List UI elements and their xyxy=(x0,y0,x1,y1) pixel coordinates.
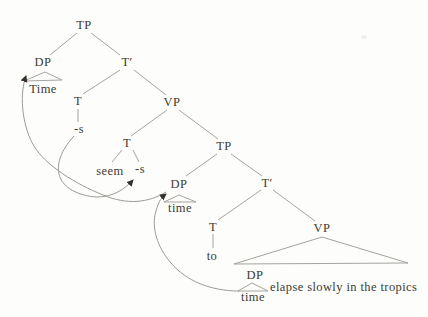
branch-tbar-vp xyxy=(134,70,166,95)
roof-vp-big xyxy=(234,237,408,264)
leaf-vp-phrase: elapse slowly in the tropics xyxy=(270,281,417,294)
leaf-time-lowest: time xyxy=(241,291,265,304)
branch-tbar-t xyxy=(83,70,120,94)
node-dp-embedded: DP xyxy=(171,178,188,191)
branch-tseem-seem xyxy=(112,150,122,162)
leaf-seem: seem xyxy=(96,165,123,178)
syntax-tree-figure: TP DP T′ Time T VP -s T TP seem -s DP T′… xyxy=(0,0,428,317)
branch-tp-dp xyxy=(50,33,77,55)
branch-tp-tbar xyxy=(91,33,120,55)
roof-time-matrix xyxy=(24,72,62,81)
branch-tbar2-t3 xyxy=(218,190,261,220)
node-t-matrix: T xyxy=(74,95,82,108)
branch-vp-tp2 xyxy=(179,110,218,139)
leaf-s-matrix: -s xyxy=(74,123,84,136)
node-tp-embedded: TP xyxy=(216,140,231,153)
node-vp-embedded: VP xyxy=(314,222,331,235)
branch-tp2-tbar2 xyxy=(231,154,262,176)
branch-tbar2-vp2 xyxy=(273,190,315,221)
branch-tseem-s xyxy=(133,150,139,162)
node-vp-matrix: VP xyxy=(164,96,181,109)
node-tbar-embedded: T′ xyxy=(261,177,272,190)
leaf-time-embedded: time xyxy=(168,202,192,215)
node-t-seem: T xyxy=(123,137,131,150)
node-t-embedded: T xyxy=(209,221,217,234)
scan-artifact-dot xyxy=(361,35,367,39)
node-tp-root: TP xyxy=(76,19,91,32)
node-dp-lowest: DP xyxy=(247,269,264,282)
node-dp-matrix: DP xyxy=(35,56,52,69)
movement-arrow-dp-raising-lower xyxy=(154,194,239,291)
tree-lines-layer xyxy=(0,0,428,317)
leaf-to: to xyxy=(207,250,218,263)
branch-tp2-dp2 xyxy=(186,154,217,176)
leaf-s-seem: -s xyxy=(135,163,145,176)
branch-vp-tseem xyxy=(131,110,167,136)
leaf-time-matrix: Time xyxy=(29,83,57,96)
node-tbar-matrix: T′ xyxy=(121,56,132,69)
